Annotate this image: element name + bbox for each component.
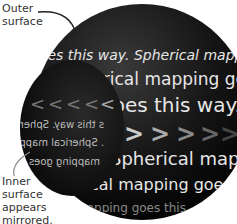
svg-text:<: < [66,93,81,114]
svg-text:<: < [30,93,45,114]
svg-text:<: < [48,93,63,114]
svg-text:<: < [84,93,99,114]
svg-text:>: > [220,120,237,148]
svg-text:s this way. Spherical: s this way. Spherical [3,119,104,130]
svg-text:>: > [124,120,144,148]
svg-text:>: > [200,120,220,148]
svg-text:>: > [150,120,170,148]
sphere-diagram: goes this way. Spherical mapping Spheric… [0,0,237,224]
svg-text:Spherical mapp: Spherical mapp [110,148,237,169]
outer-pointer-arrow [38,12,76,34]
svg-text:mapping goes: mapping goes [29,156,100,167]
svg-text:. Spherical mapp: . Spherical mapp [19,137,104,148]
svg-text:goes this way. Spherical mappi: goes this way. Spherical mapping [30,47,237,63]
svg-text:mapping goes this: mapping goes this [75,201,186,215]
chevrons-right: > > > > > [124,120,237,148]
svg-text:>: > [176,120,196,148]
svg-text:cal mapping goes: cal mapping goes [90,175,232,194]
svg-text:<: < [100,93,115,114]
